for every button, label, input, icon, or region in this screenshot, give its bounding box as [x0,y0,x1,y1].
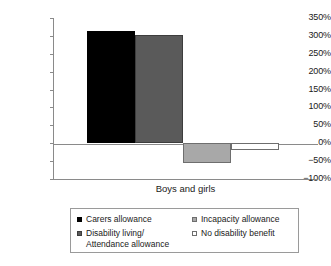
bar-chart: 350%300%250%200%150%100%50%0%−50%−100% B… [0,0,331,266]
black-square-swatch [77,217,82,222]
legend-item[interactable]: Carers allowance [77,214,152,225]
legend-item[interactable]: Disability living/ Attendance allowance [77,228,169,249]
bar-1 [87,31,135,143]
legend-item-label: No disability benefit [201,228,275,239]
chart-legend: Carers allowanceDisability living/ Atten… [70,208,299,253]
medium-gray-square-swatch [192,217,197,222]
bars-layer [0,0,331,186]
bar-3 [183,143,231,163]
white-square-swatch [192,231,197,236]
legend-item[interactable]: No disability benefit [192,228,275,239]
legend-item-label: Incapacity allowance [201,214,279,225]
legend-item-label: Disability living/ Attendance allowance [86,228,169,249]
bar-2 [135,35,183,143]
dark-gray-square-swatch [77,231,82,236]
legend-item-label: Carers allowance [86,214,152,225]
bar-4 [231,143,279,149]
plot-area: 350%300%250%200%150%100%50%0%−50%−100% B… [0,0,331,186]
legend-item[interactable]: Incapacity allowance [192,214,279,225]
x-axis-title: Boys and girls [53,183,318,195]
